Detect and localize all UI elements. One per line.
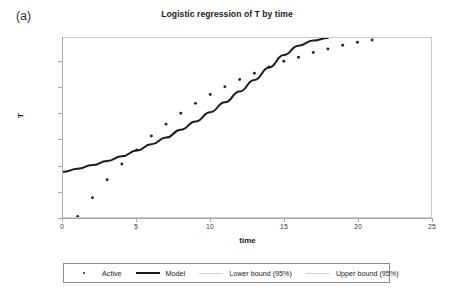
legend-key-icon [135,269,161,278]
data-point [179,112,182,115]
data-point [106,178,109,181]
y-axis-title: T [16,113,25,118]
plot-area [62,37,432,218]
x-tick-label: 10 [195,223,225,230]
legend-key-icon [198,269,224,278]
data-point [356,41,359,44]
x-tick-label: 20 [343,223,373,230]
x-axis-title: time [62,236,433,245]
x-tick-label: 5 [121,223,151,230]
plot-canvas [63,38,431,217]
data-point [76,215,79,217]
line-icon [199,273,223,274]
series-line-model [63,38,328,172]
chart-figure: (a) Logistic regression of T by time 050… [0,0,454,297]
data-point [371,39,374,42]
data-point [326,47,329,50]
legend-entry[interactable]: Model [135,269,186,278]
plot-svg [63,38,431,217]
data-point [194,102,197,105]
x-tick-label: 25 [417,223,447,230]
data-point [253,72,256,75]
x-tick-label: 15 [269,223,299,230]
data-point [312,51,315,54]
data-point [91,196,94,199]
legend-entry[interactable]: Upper bound (95%) [305,269,399,278]
legend-label: Active [102,269,122,278]
data-point [165,123,168,126]
data-point [209,93,212,96]
x-tick-label: 0 [47,223,77,230]
data-point [297,56,300,59]
legend-label: Model [166,269,186,278]
series-points-active [76,39,373,217]
legend-label: Upper bound (95%) [336,269,399,278]
y-axis-line [62,37,63,219]
legend-label: Lower bound (95%) [229,269,292,278]
data-point [120,163,123,166]
legend-key-icon [71,269,97,278]
chart-legend: ActiveModelLower bound (95%)Upper bound … [63,263,390,283]
x-axis-line [62,218,433,219]
data-point [223,85,226,88]
chart-title: Logistic regression of T by time [0,9,454,19]
line-icon [136,272,160,274]
data-point [282,60,285,63]
legend-key-icon [305,269,331,278]
marker-icon [83,272,85,274]
data-point [238,78,241,81]
data-point [341,44,344,47]
legend-entry[interactable]: Lower bound (95%) [198,269,292,278]
legend-entry[interactable]: Active [71,269,122,278]
line-icon [306,273,330,274]
data-point [150,135,153,138]
y-axis-ticks: 050100150200250300 [0,0,62,297]
